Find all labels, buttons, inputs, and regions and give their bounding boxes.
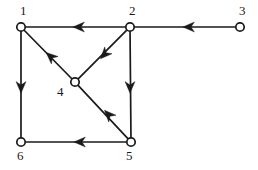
arrowhead-icon — [101, 107, 116, 122]
node-label-5: 5 — [126, 149, 133, 162]
node-label-1: 1 — [20, 4, 27, 17]
directed-graph-figure: 123456 — [0, 0, 258, 170]
node-label-6: 6 — [17, 149, 24, 162]
graph-edge — [78, 85, 128, 139]
graph-node-2[interactable] — [126, 23, 134, 31]
graph-canvas — [0, 0, 258, 170]
node-label-3: 3 — [239, 4, 246, 17]
node-label-4: 4 — [57, 85, 64, 98]
graph-node-3[interactable] — [236, 23, 244, 31]
graph-node-1[interactable] — [17, 23, 25, 31]
graph-node-6[interactable] — [17, 138, 25, 146]
graph-node-4[interactable] — [71, 78, 79, 86]
arrowhead-icon — [97, 47, 112, 62]
node-label-2: 2 — [129, 4, 136, 17]
arrowheads-layer — [16, 22, 194, 147]
graph-node-5[interactable] — [127, 138, 135, 146]
